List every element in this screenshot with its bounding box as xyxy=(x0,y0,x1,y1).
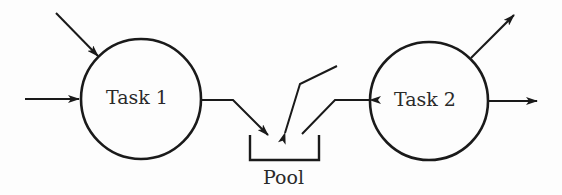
pool-label: Pool xyxy=(263,166,304,188)
arrow-task2-to-pool xyxy=(302,100,370,134)
task1-label: Task 1 xyxy=(106,86,168,108)
pool-container xyxy=(250,135,319,160)
arrow-task1-to-pool xyxy=(201,100,268,135)
arrow-out-upper-right xyxy=(471,15,514,58)
diagram-canvas: Task 1 Task 2 Pool xyxy=(0,0,562,195)
arrow-pool-out xyxy=(285,66,337,133)
arrow-in-upper-left xyxy=(56,13,98,56)
task2-label: Task 2 xyxy=(394,88,456,110)
